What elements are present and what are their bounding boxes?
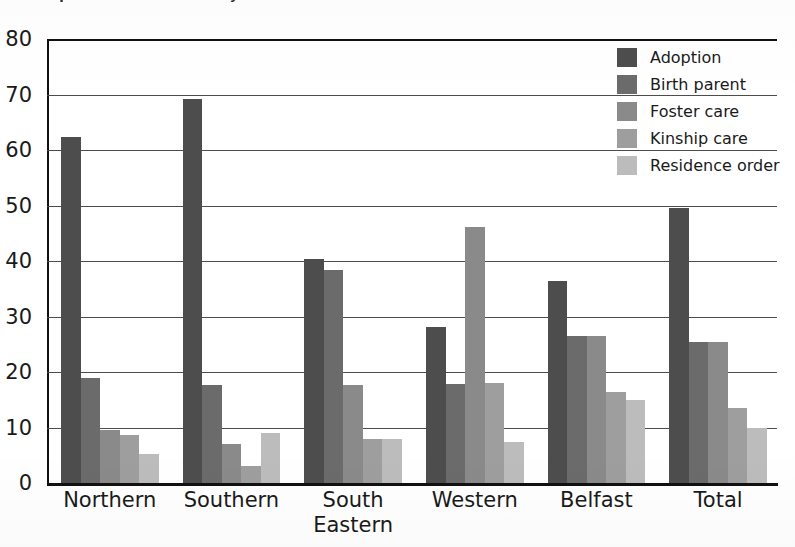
y-tick-label-30: 30	[0, 306, 32, 327]
bar[interactable]	[587, 336, 607, 483]
bar-group	[426, 39, 524, 483]
x-axis-category-labels: NorthernSouthernSouth EasternWesternBelf…	[47, 488, 778, 546]
bar[interactable]	[606, 392, 626, 483]
y-tick-label-20: 20	[0, 362, 32, 383]
bar-group	[61, 39, 159, 483]
bar[interactable]	[100, 430, 120, 483]
figure-title-cropped: Chart: placement outcomes by HSC trust	[8, 0, 428, 3]
bar[interactable]	[324, 270, 344, 483]
bar[interactable]	[261, 433, 281, 484]
legend-label: Kinship care	[650, 131, 748, 147]
y-axis-tick-labels: 01020304050607080	[0, 39, 40, 483]
bar[interactable]	[626, 400, 646, 483]
y-tick-label-0: 0	[0, 473, 32, 494]
legend-swatch-icon	[617, 102, 637, 121]
y-tick-label-10: 10	[0, 417, 32, 438]
x-label-western: Western	[405, 488, 545, 513]
bar[interactable]	[426, 327, 446, 483]
bar[interactable]	[183, 99, 203, 483]
bar[interactable]	[689, 342, 709, 483]
bar[interactable]	[120, 435, 140, 483]
legend-item[interactable]: Kinship care	[617, 125, 792, 152]
bar-group	[183, 39, 281, 483]
y-tick-label-80: 80	[0, 29, 32, 50]
legend-label: Adoption	[650, 50, 721, 66]
legend-swatch-icon	[617, 129, 637, 148]
y-tick-label-40: 40	[0, 251, 32, 272]
legend-item[interactable]: Residence order	[617, 152, 792, 179]
bar[interactable]	[81, 378, 101, 483]
bar[interactable]	[363, 439, 383, 483]
bar-group	[304, 39, 402, 483]
legend-item[interactable]: Adoption	[617, 44, 792, 71]
legend-swatch-icon	[617, 48, 637, 67]
bar[interactable]	[343, 385, 363, 483]
bar[interactable]	[202, 385, 222, 483]
y-tick-label-70: 70	[0, 84, 32, 105]
bar[interactable]	[465, 227, 485, 483]
legend-swatch-icon	[617, 156, 637, 175]
bar[interactable]	[504, 442, 524, 483]
legend-item[interactable]: Birth parent	[617, 71, 792, 98]
bar[interactable]	[61, 137, 81, 483]
legend-label: Foster care	[650, 104, 739, 120]
bar[interactable]	[708, 342, 728, 483]
bar[interactable]	[728, 408, 748, 483]
bar[interactable]	[485, 383, 505, 483]
y-tick-label-60: 60	[0, 140, 32, 161]
x-axis-line	[47, 483, 778, 486]
bar[interactable]	[446, 384, 466, 483]
legend-swatch-icon	[617, 75, 637, 94]
legend-label: Birth parent	[650, 77, 746, 93]
bar[interactable]	[669, 208, 689, 483]
x-label-belfast: Belfast	[526, 488, 666, 513]
bar[interactable]	[304, 259, 324, 483]
x-label-southern: Southern	[161, 488, 301, 513]
bar[interactable]	[567, 336, 587, 483]
bar[interactable]	[222, 444, 242, 483]
x-label-northern: Northern	[40, 488, 180, 513]
bar[interactable]	[548, 281, 568, 483]
legend-label: Residence order	[650, 158, 780, 174]
y-tick-label-50: 50	[0, 195, 32, 216]
bar[interactable]	[139, 454, 159, 483]
bar[interactable]	[382, 439, 402, 483]
chart-legend: AdoptionBirth parentFoster careKinship c…	[617, 44, 792, 179]
x-label-south-eastern: South Eastern	[283, 488, 423, 538]
bar[interactable]	[747, 428, 767, 483]
legend-item[interactable]: Foster care	[617, 98, 792, 125]
bar[interactable]	[241, 466, 261, 483]
bar-chart-figure: Chart: placement outcomes by HSC trust 0…	[0, 0, 795, 547]
x-label-total: Total	[648, 488, 788, 513]
